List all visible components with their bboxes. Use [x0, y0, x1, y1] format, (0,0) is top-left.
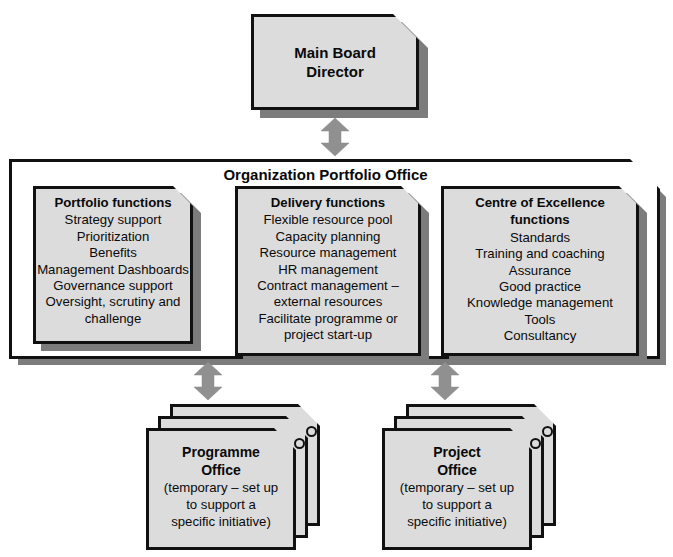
programme-office-title-line1: Programme	[182, 443, 260, 461]
programme-office-title-line2: Office	[201, 461, 241, 479]
centre-of-excellence-item: Good practice	[499, 279, 581, 295]
project-office-stack[interactable]: Project Office (temporary – set up to su…	[382, 404, 592, 554]
programme-office-detail: specific initiative)	[171, 513, 271, 530]
centre-of-excellence-item: Consultancy	[504, 328, 577, 344]
portfolio-office-title: Organization Portfolio Office	[0, 160, 651, 183]
delivery-functions-item: external resources	[274, 294, 382, 310]
connector-arrow-office-to-project	[430, 362, 460, 400]
centre-of-excellence-item: Standards	[510, 230, 570, 246]
portfolio-functions-item: Management Dashboards	[37, 262, 189, 278]
project-office-title-line1: Project	[433, 443, 480, 461]
portfolio-functions-item: Oversight, scrutiny and	[46, 294, 181, 310]
programme-office-stack[interactable]: Programme Office (temporary – set up to …	[146, 404, 356, 554]
delivery-functions-item: project start-up	[284, 327, 372, 343]
portfolio-functions-item: Governance support	[53, 278, 173, 294]
programme-office-card-front[interactable]: Programme Office (temporary – set up to …	[146, 428, 296, 550]
programme-office-card-middle-dot	[294, 438, 305, 449]
connector-arrow-director-to-office	[320, 118, 350, 156]
project-office-card-front[interactable]: Project Office (temporary – set up to su…	[382, 428, 532, 550]
delivery-functions-item: Facilitate programme or	[258, 311, 397, 327]
project-office-card-back-dot	[542, 426, 553, 437]
portfolio-functions-item: challenge	[85, 311, 141, 327]
project-office-detail: to support a	[422, 496, 492, 513]
centre-of-excellence-heading-line1: Centre of Excellence	[475, 195, 605, 211]
centre-of-excellence-item: Knowledge management	[467, 295, 613, 311]
programme-office-detail: to support a	[186, 496, 256, 513]
portfolio-functions-item: Strategy support	[65, 212, 162, 228]
portfolio-functions-item: Prioritization	[77, 229, 150, 245]
project-office-card-middle-dot	[530, 438, 541, 449]
main-board-director-label-line1: Main Board	[294, 43, 376, 62]
programme-office-card-back-dot	[306, 426, 317, 437]
centre-of-excellence-item: Tools	[525, 312, 556, 328]
project-office-title-line2: Office	[437, 461, 477, 479]
main-board-director-label-line2: Director	[306, 62, 364, 81]
centre-of-excellence-heading-line2: functions	[510, 212, 569, 228]
centre-of-excellence-box[interactable]: Centre of Excellence functions Standards…	[441, 186, 639, 356]
delivery-functions-item: HR management	[278, 262, 378, 278]
programme-office-detail: (temporary – set up	[164, 479, 278, 496]
delivery-functions-item: Capacity planning	[276, 229, 381, 245]
centre-of-excellence-item: Training and coaching	[475, 246, 604, 262]
project-office-detail: specific initiative)	[407, 513, 507, 530]
portfolio-functions-box[interactable]: Portfolio functions Strategy support Pri…	[33, 186, 193, 344]
centre-of-excellence-item: Assurance	[509, 263, 571, 279]
delivery-functions-box[interactable]: Delivery functions Flexible resource poo…	[235, 186, 421, 356]
delivery-functions-item: Flexible resource pool	[263, 212, 392, 228]
connector-arrow-office-to-programme	[193, 362, 223, 400]
main-board-director-node[interactable]: Main Board Director	[251, 14, 419, 110]
project-office-detail: (temporary – set up	[400, 479, 514, 496]
portfolio-functions-item: Benefits	[89, 245, 137, 261]
delivery-functions-heading: Delivery functions	[271, 195, 385, 211]
delivery-functions-item: Resource management	[259, 245, 396, 261]
portfolio-functions-heading: Portfolio functions	[54, 195, 171, 211]
delivery-functions-item: Contract management –	[257, 278, 398, 294]
